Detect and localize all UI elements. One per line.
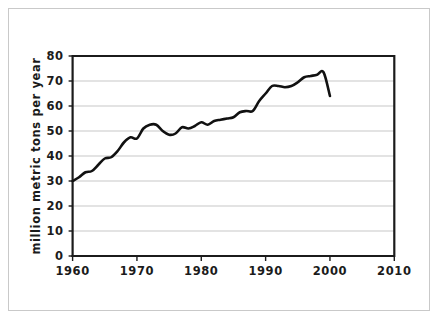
y-tick-label-80: 80 [46,49,63,63]
chart-area: 01020304050607080 1960197019801990200020… [0,0,441,323]
data-series-group [73,71,330,181]
y-axis-tick-labels: 01020304050607080 [46,49,63,263]
gridlines [73,81,395,231]
x-tick-label-2010: 2010 [377,264,411,278]
y-axis-title: million metric tons per year [29,57,43,254]
x-tick-label-1960: 1960 [55,264,89,278]
x-tick-label-1990: 1990 [248,264,282,278]
figure-root: 01020304050607080 1960197019801990200020… [0,0,441,323]
line-chart: 01020304050607080 1960197019801990200020… [0,0,441,323]
y-tick-label-60: 60 [46,99,63,113]
y-tick-label-40: 40 [46,149,63,163]
series-line-production [73,71,330,181]
y-tick-label-20: 20 [46,199,63,213]
y-tick-label-10: 10 [46,224,63,238]
y-axis-title-text: million metric tons per year [29,57,43,254]
x-axis-tick-labels: 196019701980199020002010 [55,264,411,278]
y-tick-label-0: 0 [55,249,64,263]
y-tick-label-30: 30 [46,174,63,188]
x-tick-label-2000: 2000 [313,264,347,278]
y-tick-label-70: 70 [46,74,63,88]
y-tick-label-50: 50 [46,124,63,138]
x-tick-label-1970: 1970 [120,264,154,278]
x-tick-label-1980: 1980 [184,264,218,278]
